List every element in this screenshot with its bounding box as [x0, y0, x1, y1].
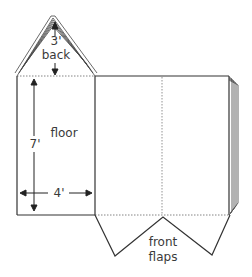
width-dimension-label: 4' [50, 186, 68, 200]
stacked-edges-right [229, 77, 238, 215]
back-dimension-label: 3' [48, 34, 64, 48]
flaps-label: flaps [143, 250, 183, 264]
back-label: back [40, 48, 72, 62]
front-label: front [143, 235, 183, 249]
height-dimension-label: 7' [27, 137, 43, 151]
floor-label: floor [46, 126, 82, 140]
